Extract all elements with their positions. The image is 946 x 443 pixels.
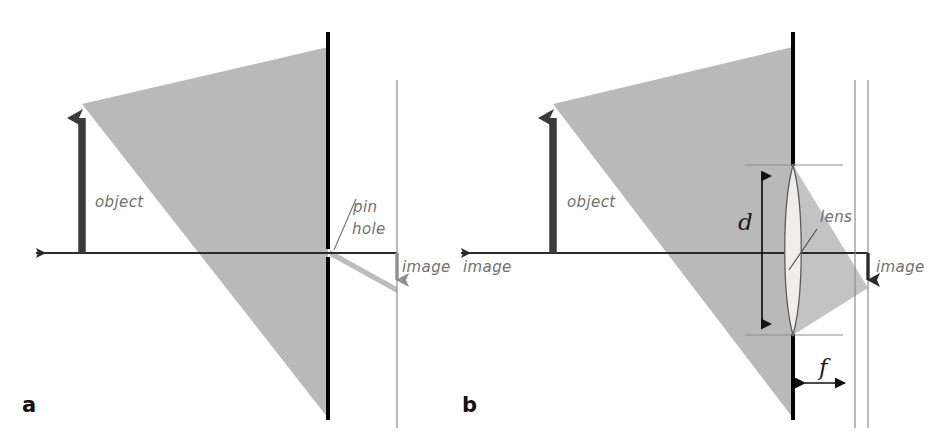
panel-a-letter: a bbox=[22, 393, 36, 417]
panel-a-light-cone bbox=[82, 47, 328, 418]
panel-a-image-label: image bbox=[402, 258, 451, 276]
panel-b-converging-cone bbox=[793, 165, 868, 335]
panel-a-projected-ray-wedge bbox=[330, 250, 397, 293]
panel-a-group: object pin hole image a bbox=[22, 32, 451, 428]
panel-b-group: object lens image image d f b bbox=[461, 32, 925, 428]
panel-b-diameter-label: d bbox=[738, 209, 753, 235]
panel-b-letter: b bbox=[462, 393, 477, 417]
panel-b-lens-label: lens bbox=[820, 208, 852, 226]
panel-b-light-cone bbox=[553, 47, 793, 418]
panel-b-image-label-right: image bbox=[876, 258, 925, 276]
panel-b-image-label-left: image bbox=[463, 258, 512, 276]
panel-b-focal-length-label: f bbox=[817, 354, 831, 380]
panel-a-pinhole-label-line2: hole bbox=[352, 220, 386, 238]
panel-b-object-label: object bbox=[567, 193, 616, 211]
optics-figure-canvas: object pin hole image a bbox=[0, 0, 946, 443]
panel-a-pinhole-label-line1: pin bbox=[352, 198, 377, 216]
panel-a-object-label: object bbox=[95, 193, 144, 211]
optics-figure-container: object pin hole image a bbox=[0, 0, 946, 443]
